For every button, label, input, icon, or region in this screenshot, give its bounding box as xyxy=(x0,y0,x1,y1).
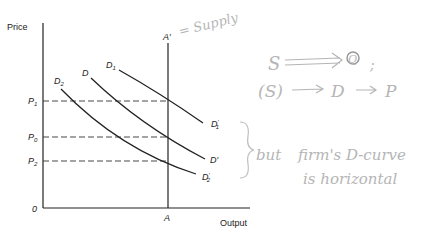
origin-label: 0 xyxy=(32,204,37,214)
demand-curve-d xyxy=(91,78,205,159)
d2-end-label: D′2 xyxy=(202,172,211,183)
supply-demand-diagram: Price Output 0 A′ A P1 P0 P2 D1 D D2 D′1… xyxy=(0,0,423,239)
note-p: P xyxy=(384,81,397,101)
supply-top-label: A′ xyxy=(162,32,171,42)
d1-end-label: D′1 xyxy=(211,119,220,130)
arrow-icon-1 xyxy=(292,85,323,93)
p1-label: P1 xyxy=(28,96,37,107)
note-q: Q xyxy=(348,53,357,66)
arrow-icon-2 xyxy=(356,86,376,94)
d1-start-label: D1 xyxy=(106,60,116,71)
double-arrow-icon xyxy=(285,53,342,68)
y-axis-label: Price xyxy=(7,22,28,32)
note-s-paren: (S) xyxy=(258,81,283,101)
d2-start-label: D2 xyxy=(54,76,65,87)
note-line-1: firm's D-curve xyxy=(297,146,406,164)
demand-curve-d1 xyxy=(119,70,203,123)
supply-note: = Supply xyxy=(177,10,240,39)
note-s: S xyxy=(268,53,280,74)
p2-label: P2 xyxy=(28,156,38,167)
x-axis-label: Output xyxy=(220,218,248,228)
supply-bottom-label: A xyxy=(163,213,170,223)
d-start-label: D xyxy=(82,68,89,78)
d-end-label: D′ xyxy=(210,155,218,165)
note-line-2: is horizontal xyxy=(303,170,397,188)
brace-note: but xyxy=(256,146,282,164)
p0-label: P0 xyxy=(28,132,38,143)
note-semicolon: ; xyxy=(369,57,375,73)
note-d: D xyxy=(330,81,345,101)
curly-brace-icon xyxy=(240,122,254,178)
